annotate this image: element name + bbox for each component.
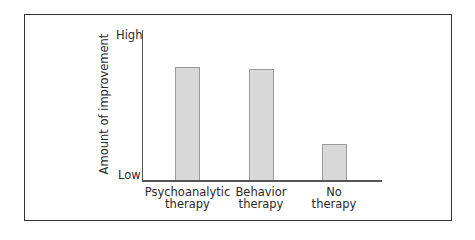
x-axis: [142, 180, 382, 182]
bar-behavior-therapy: [249, 69, 274, 180]
category-label: Notherapy: [312, 186, 357, 210]
category-label: Psychoanalytictherapy: [145, 186, 231, 210]
category-label-line: therapy: [235, 198, 286, 210]
y-axis: [142, 30, 143, 180]
category-label: Behaviortherapy: [235, 186, 286, 210]
category-label-line: therapy: [145, 198, 231, 210]
category-label-line: therapy: [312, 198, 357, 210]
bar-psychoanalytic-therapy: [175, 67, 200, 180]
y-axis-title: Amount of improvement: [97, 34, 111, 175]
y-tick-high: High: [116, 30, 142, 42]
bar-no-therapy: [322, 144, 347, 180]
y-tick-low: Low: [118, 170, 141, 182]
